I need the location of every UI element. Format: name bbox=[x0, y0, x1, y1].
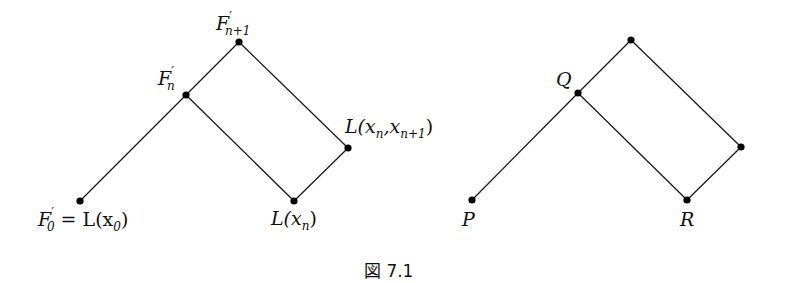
figure-caption: 図 7.1 bbox=[364, 257, 413, 282]
diagram-canvas bbox=[0, 0, 787, 283]
edge-f0-fn bbox=[80, 95, 186, 201]
node-fn bbox=[182, 91, 189, 98]
node-lxn bbox=[290, 197, 297, 204]
edge-r-right bbox=[687, 147, 741, 200]
node-top bbox=[627, 36, 634, 43]
edge-fn-fn1 bbox=[186, 42, 239, 95]
edge-fn1-lxnxn1 bbox=[239, 42, 348, 148]
label-lxn-xn1: L(xn,xn+1) bbox=[345, 117, 433, 140]
node-f0 bbox=[76, 197, 83, 204]
node-lxnxn1 bbox=[344, 144, 351, 151]
edge-p-q bbox=[472, 93, 578, 200]
node-p bbox=[468, 196, 475, 203]
node-q bbox=[574, 89, 581, 96]
right-diagram bbox=[468, 36, 744, 203]
edge-q-top bbox=[578, 40, 631, 93]
left-diagram bbox=[76, 38, 351, 204]
edge-top-right bbox=[631, 40, 741, 147]
label-fn: F′n bbox=[158, 68, 175, 92]
edge-q-r bbox=[578, 93, 687, 200]
edge-fn-lxn bbox=[186, 95, 294, 201]
label-p: P bbox=[462, 210, 475, 229]
label-q: Q bbox=[556, 70, 572, 89]
node-r bbox=[683, 196, 690, 203]
node-fn1 bbox=[235, 38, 242, 45]
label-lxn: L(xn) bbox=[271, 209, 317, 232]
edge-lxn-lxnxn1 bbox=[294, 148, 348, 201]
label-fn1: F′n+1 bbox=[216, 13, 250, 37]
label-f0-equals-lx0: F′0 = L(x0) bbox=[38, 209, 128, 233]
node-right bbox=[737, 143, 744, 150]
label-r: R bbox=[680, 210, 694, 229]
